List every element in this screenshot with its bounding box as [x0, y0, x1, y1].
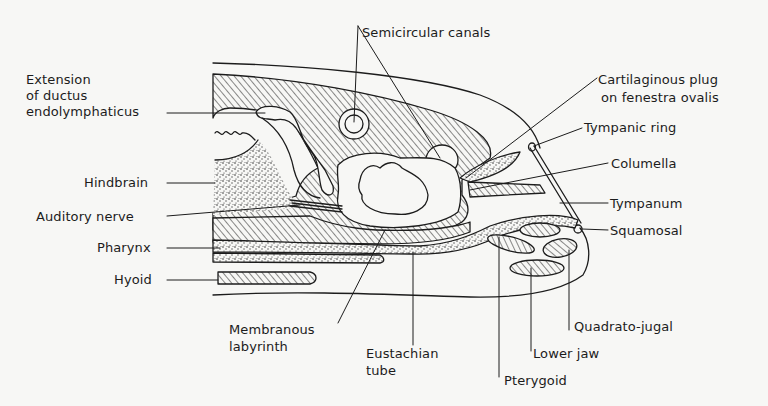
label-quadrato-jugal: Quadrato-jugal	[574, 319, 673, 334]
lower-jaw-bone	[510, 260, 564, 276]
label-semicircular-canals: Semicircular canals	[362, 25, 490, 40]
label-extension-line2: of ductus	[26, 88, 87, 103]
label-pharynx: Pharynx	[97, 240, 151, 255]
choroid-wavy	[215, 132, 255, 140]
quadrato-jugal-bone	[542, 236, 579, 260]
hyoid	[218, 272, 316, 284]
columella	[468, 182, 545, 197]
label-membranous-line2: labyrinth	[229, 339, 288, 354]
label-columella: Columella	[611, 156, 677, 171]
label-hindbrain: Hindbrain	[84, 175, 148, 190]
label-squamosal: Squamosal	[610, 223, 683, 238]
label-tympanic-ring: Tympanic ring	[584, 120, 676, 135]
label-cartilaginous-line1: Cartilaginous plug	[598, 72, 718, 87]
label-auditory-nerve: Auditory nerve	[36, 209, 134, 224]
label-eustachian-line1: Eustachian	[366, 346, 439, 361]
label-cartilaginous-line2: on fenestra ovalis	[601, 90, 719, 105]
label-extension-line1: Extension	[26, 72, 91, 87]
label-lower-jaw: Lower jaw	[533, 346, 599, 361]
squamosal-bone	[520, 223, 560, 237]
label-pterygoid: Pterygoid	[504, 373, 567, 388]
ear-diagram: Semicircular canals Extension of ductus …	[0, 0, 768, 406]
label-tympanum: Tympanum	[610, 196, 682, 211]
hindbrain	[213, 140, 297, 215]
label-eustachian-line2: tube	[366, 363, 396, 378]
label-extension-line3: endolymphaticus	[26, 104, 139, 119]
label-membranous-line1: Membranous	[229, 322, 315, 337]
label-hyoid: Hyoid	[114, 272, 152, 287]
pharynx-band	[213, 253, 384, 263]
membranous-labyrinth	[337, 153, 460, 227]
